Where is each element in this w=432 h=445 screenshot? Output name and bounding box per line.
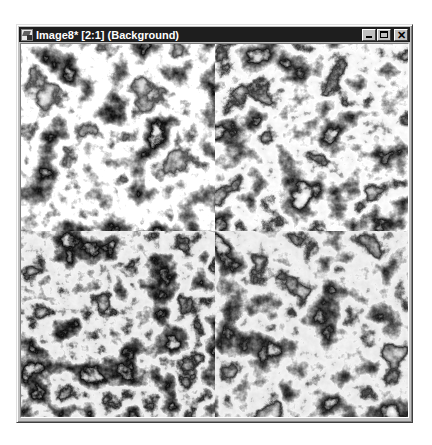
texture-quadrant-top-left xyxy=(21,44,215,231)
texture-quadrant-bottom-right xyxy=(215,231,408,417)
cloud-texture xyxy=(21,44,215,231)
image-canvas-frame xyxy=(20,43,409,418)
title-bar[interactable]: Image8* [2:1] (Background) ✕ xyxy=(19,27,410,42)
texture-quadrant-top-right xyxy=(215,44,408,231)
minimize-icon xyxy=(366,36,372,38)
window-controls: ✕ xyxy=(361,29,408,41)
minimize-button[interactable] xyxy=(362,29,376,41)
close-icon: ✕ xyxy=(395,28,407,42)
maximize-icon xyxy=(380,31,388,38)
window-title: Image8* [2:1] (Background) xyxy=(36,29,361,41)
image-document-window[interactable]: Image8* [2:1] (Background) ✕ xyxy=(16,24,413,423)
image-document-icon[interactable] xyxy=(21,29,33,41)
texture-quadrant-bottom-left xyxy=(21,231,215,417)
close-button[interactable]: ✕ xyxy=(394,29,408,41)
cloud-texture xyxy=(215,231,408,417)
image-canvas[interactable] xyxy=(21,44,408,417)
cloud-texture xyxy=(215,44,408,231)
cloud-texture xyxy=(21,231,215,417)
maximize-button[interactable] xyxy=(377,29,391,41)
